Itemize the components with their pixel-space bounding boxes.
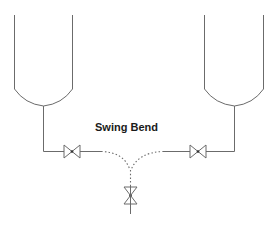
swing-bend-connection xyxy=(101,152,164,186)
left-tank xyxy=(15,15,73,106)
left-valve-icon xyxy=(64,145,80,158)
right-tank xyxy=(205,15,264,106)
right-valve-icon xyxy=(190,145,206,158)
drain-valve-icon xyxy=(124,185,137,214)
swing-bend-label: Swing Bend xyxy=(95,121,158,133)
left-pipe xyxy=(44,106,102,152)
swing-bend-diagram xyxy=(0,0,271,229)
right-pipe xyxy=(164,106,235,152)
